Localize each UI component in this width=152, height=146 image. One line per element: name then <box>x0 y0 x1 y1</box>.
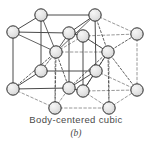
bcc-crystal-figure: Body-centered cubic (b) <box>0 0 152 146</box>
atom-sphere <box>35 65 47 77</box>
bond-center-right-to-a14 <box>108 52 137 90</box>
atom-sphere <box>77 30 89 42</box>
atoms-group <box>7 9 143 114</box>
atom-sphere <box>50 46 62 58</box>
corner-atom-bottom-mid-low <box>103 102 115 114</box>
atom-sphere <box>131 28 143 40</box>
bcc-lattice-diagram <box>0 0 152 118</box>
corner-atom-mid-back-left <box>35 65 47 77</box>
atom-sphere <box>102 46 114 58</box>
atom-sphere <box>103 102 115 114</box>
corner-atom-mid-back-mid <box>90 65 102 77</box>
atom-sphere <box>89 9 101 21</box>
corner-atom-top-front-mid <box>63 27 75 39</box>
caption-title: Body-centered cubic <box>0 114 152 126</box>
atom-sphere <box>131 84 143 96</box>
caption-subtitle: (b) <box>0 127 152 139</box>
edge-vert-backmid <box>95 15 96 71</box>
body-center-atom-left-cell <box>50 46 62 58</box>
atom-sphere <box>7 26 19 38</box>
corner-atom-bottom-front-left <box>7 83 19 95</box>
bond-center-right-to-a16 <box>108 52 109 108</box>
atom-sphere <box>35 9 47 21</box>
corner-atom-top-front-left <box>7 26 19 38</box>
atom-sphere <box>63 27 75 39</box>
corner-atom-top-back-left <box>35 9 47 21</box>
hidden-edge-top-backmid-to-backright <box>95 15 137 34</box>
corner-atom-bottom-back-right <box>131 84 143 96</box>
corner-atom-top-mid-right <box>77 30 89 42</box>
edge-bottom-frontleft-to-frontmid <box>13 88 69 89</box>
body-center-atom-right-cell <box>102 46 114 58</box>
corner-atom-top-back-mid <box>89 9 101 21</box>
atom-sphere <box>90 65 102 77</box>
hidden-edge-low-left-to-frontleft <box>13 89 55 108</box>
corner-atom-bottom-front-mid <box>63 82 75 94</box>
corner-atom-top-back-right <box>131 28 143 40</box>
atom-sphere <box>77 85 89 97</box>
figure-caption: Body-centered cubic (b) <box>0 114 152 139</box>
bond-center-left-to-a15 <box>55 52 56 108</box>
hidden-edge-top-midright-to-backright <box>83 34 137 36</box>
hidden-edge-bottom-backmid-to-backright <box>96 71 137 90</box>
corner-atom-bottom-mid-right <box>77 85 89 97</box>
corner-atom-bottom-front-low <box>49 102 61 114</box>
atom-sphere <box>7 83 19 95</box>
bond-center-left-to-a3 <box>13 32 56 52</box>
atom-sphere <box>63 82 75 94</box>
atom-sphere <box>49 102 61 114</box>
hidden-edge-bottom-midright-to-backright <box>83 90 137 91</box>
